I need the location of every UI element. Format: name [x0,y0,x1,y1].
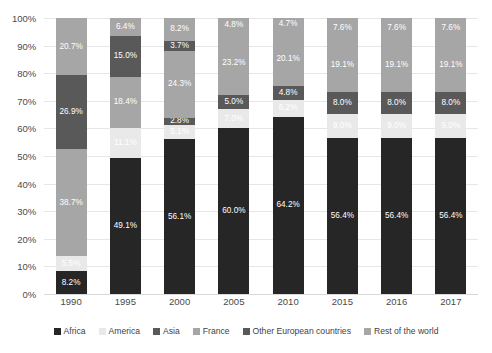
bar-segment-label: 24.3% [168,80,191,88]
bar-segment[interactable]: 60.0% [218,128,249,294]
bar-segment-label: 49.1% [114,222,137,230]
x-axis-tick-label: 2010 [273,296,304,312]
bar-column[interactable]: 7.6%19.1%8.0%9.0%56.4% [381,18,412,294]
bar-column[interactable]: 7.6%19.1%8.0%9.0%56.4% [435,18,466,294]
bar-segment-label: 3.7% [170,42,189,50]
bar-segment[interactable]: 6.2% [273,100,304,117]
bar-segment-label: 15.0% [114,52,137,60]
legend-item[interactable]: Rest of the world [364,326,438,336]
y-axis-tick-label: 50% [17,151,36,162]
bar-segment[interactable]: 56.4% [435,138,466,294]
bar-segment-label: 7.0% [225,115,244,123]
bar-segment[interactable]: 7.6% [327,18,358,39]
bar-column[interactable]: 8.2%3.7%24.3%2.8%5.1%56.1% [164,18,195,294]
y-axis-tick-label: 40% [17,178,36,189]
bar-column[interactable]: 4.7%20.1%4.8%6.2%64.2% [273,18,304,294]
gridline [44,294,478,295]
bar-column[interactable]: 20.7%26.9%38.7%5.5%8.2% [56,18,87,294]
bar-segment[interactable]: 64.2% [273,117,304,294]
y-axis-tick-label: 80% [17,68,36,79]
bar-segment[interactable]: 56.4% [327,138,358,294]
x-axis-tick-label: 1995 [110,296,141,312]
y-axis: 0%10%20%30%40%50%60%70%80%90%100% [0,18,40,294]
bar-segment[interactable]: 8.2% [164,18,195,41]
bar-segment-label: 9.0% [333,122,352,130]
bar-segment[interactable]: 26.9% [56,75,87,149]
bar-segment-label: 19.1% [385,61,408,69]
bar-segment[interactable]: 5.5% [56,256,87,271]
bar-segment[interactable]: 8.2% [56,271,87,294]
bar-segment-label: 5.5% [62,260,81,268]
bar-segment-label: 8.0% [387,99,406,107]
bar-column[interactable]: 4.8%23.2%5.0%7.0%60.0% [218,18,249,294]
bar-segment-label: 56.4% [385,212,408,220]
bar-segment[interactable]: 19.1% [381,39,412,92]
bar-segment-label: 7.6% [387,24,406,32]
legend-item[interactable]: Asia [153,326,180,336]
bar-segment-label: 4.7% [279,20,298,28]
bar-segment[interactable]: 8.0% [435,92,466,114]
bar-segment[interactable]: 19.1% [435,39,466,92]
legend-label: Africa [64,326,86,336]
chart-legend: AfricaAmericaAsiaFranceOther European co… [0,326,492,336]
bar-segment[interactable]: 20.7% [56,18,87,75]
bar-segment-label: 56.4% [331,212,354,220]
bar-segment[interactable]: 19.1% [327,39,358,92]
bar-segment-label: 5.1% [170,128,189,136]
y-axis-tick-label: 10% [17,261,36,272]
x-axis-tick-label: 2016 [381,296,412,312]
bar-segment[interactable]: 18.4% [110,77,141,128]
bar-segment[interactable]: 4.8% [218,18,249,31]
legend-swatch-icon [153,328,160,335]
bar-segment-label: 23.2% [222,59,245,67]
bar-segment[interactable]: 3.7% [164,41,195,51]
bar-segment-label: 4.8% [225,21,244,29]
x-axis-tick-label: 2005 [218,296,249,312]
bar-segment-label: 9.0% [442,122,461,130]
bar-segment[interactable]: 7.0% [218,109,249,128]
bar-column[interactable]: 6.4%15.0%18.4%11.1%49.1% [110,18,141,294]
bar-segment[interactable]: 49.1% [110,158,141,294]
x-axis: 19901995200020052010201520162017 [44,296,478,312]
bar-segment[interactable]: 4.8% [273,86,304,99]
bar-segment-label: 8.0% [333,99,352,107]
bar-segment[interactable]: 4.7% [273,18,304,31]
bar-segment[interactable]: 9.0% [327,114,358,139]
legend-item[interactable]: France [193,326,230,336]
legend-item[interactable]: Other European countries [243,326,351,336]
bar-segment[interactable]: 6.4% [110,18,141,36]
y-axis-tick-label: 70% [17,95,36,106]
bar-segment[interactable]: 20.1% [273,31,304,86]
bar-segment[interactable]: 15.0% [110,36,141,77]
bar-segment-label: 64.2% [277,201,300,209]
bar-segment[interactable]: 8.0% [327,92,358,114]
bar-segment[interactable]: 5.1% [164,125,195,139]
bar-segment[interactable]: 56.4% [381,138,412,294]
bar-segment[interactable]: 7.6% [435,18,466,39]
y-axis-tick-label: 20% [17,233,36,244]
bar-segment-label: 6.4% [116,23,135,31]
bar-column[interactable]: 7.6%19.1%8.0%9.0%56.4% [327,18,358,294]
bar-segment-label: 7.6% [442,24,461,32]
bar-segment[interactable]: 2.8% [164,118,195,126]
legend-swatch-icon [243,328,250,335]
bar-segment[interactable]: 23.2% [218,31,249,95]
x-axis-tick-label: 2017 [435,296,466,312]
legend-label: Other European countries [253,326,351,336]
bar-segment[interactable]: 56.1% [164,139,195,294]
legend-item[interactable]: Africa [54,326,86,336]
legend-label: Asia [163,326,180,336]
bar-segment[interactable]: 9.0% [381,114,412,139]
bar-segment-label: 38.7% [60,199,83,207]
bar-segment[interactable]: 24.3% [164,51,195,118]
x-axis-tick-label: 1990 [56,296,87,312]
bar-segment-label: 11.1% [114,139,137,147]
bar-segment[interactable]: 8.0% [381,92,412,114]
bar-segment[interactable]: 5.0% [218,95,249,109]
bar-segment[interactable]: 9.0% [435,114,466,139]
legend-item[interactable]: America [99,326,141,336]
bar-segment[interactable]: 7.6% [381,18,412,39]
bar-segment[interactable]: 38.7% [56,149,87,256]
bar-segment[interactable]: 11.1% [110,128,141,159]
bar-segment-label: 9.0% [387,122,406,130]
